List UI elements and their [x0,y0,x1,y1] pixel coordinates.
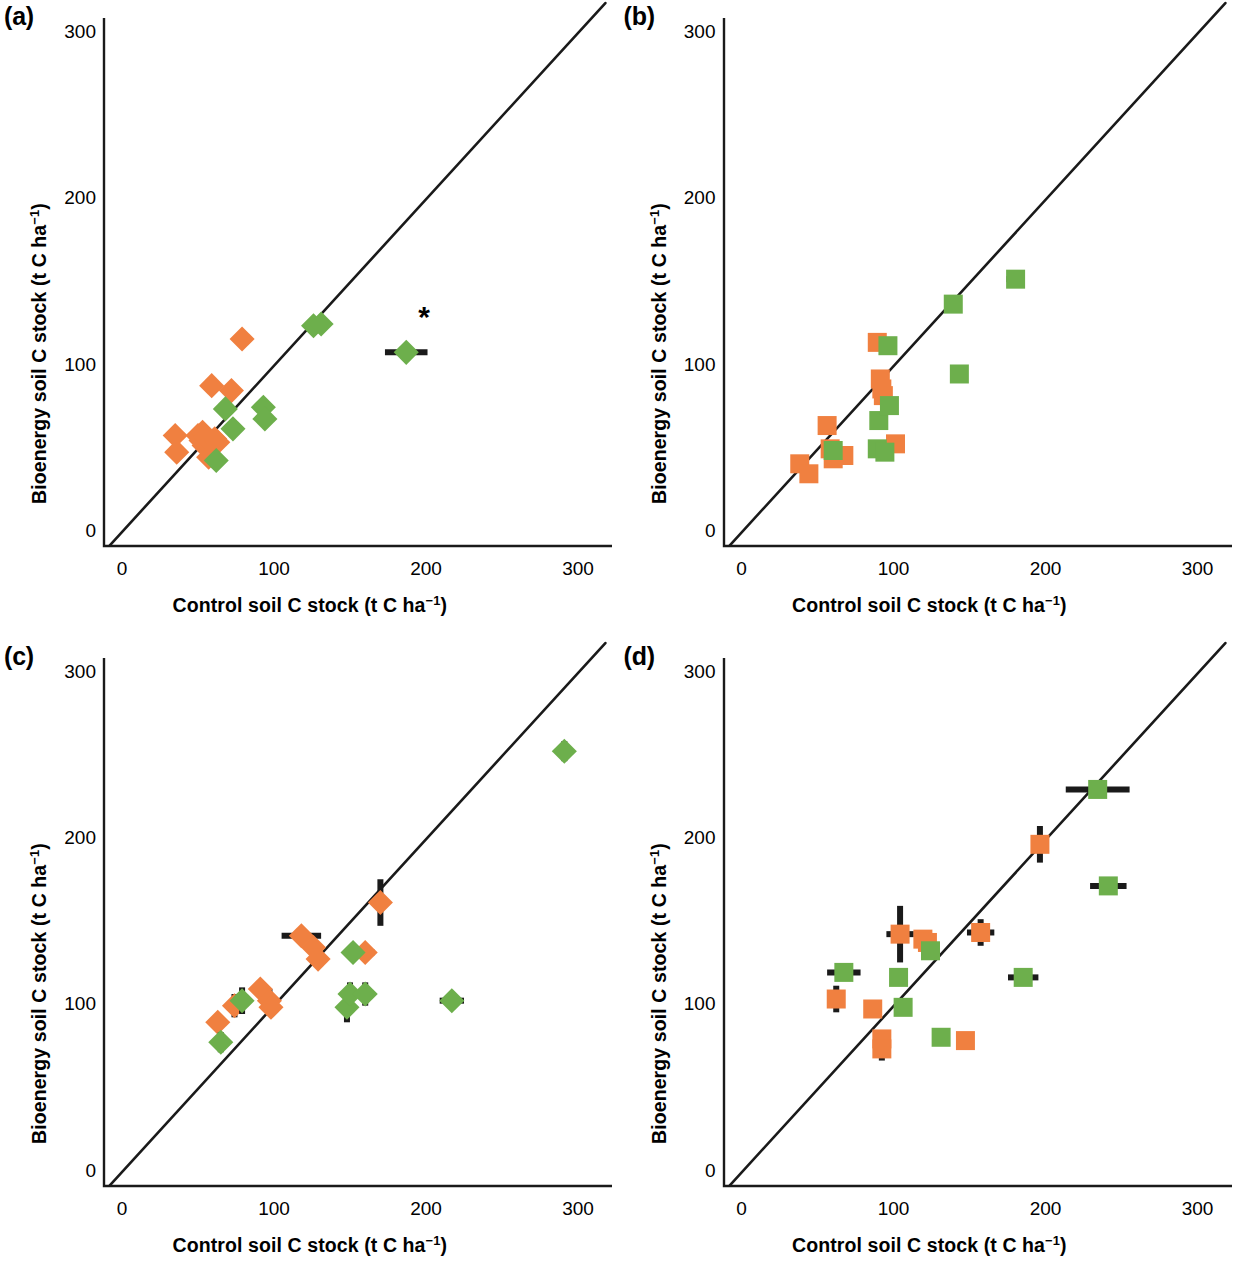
x-axis-title-exponent: −1 [1045,593,1060,608]
figure-root: (a)01002003000100200300Control soil C st… [0,0,1239,1279]
y-axis-title-tail: ) [28,203,50,210]
y-tick-label: 300 [628,21,716,43]
y-tick-label: 200 [628,827,716,849]
x-tick-label: 200 [1006,558,1086,580]
plot-area-a [0,0,620,640]
x-tick-label: 0 [702,558,782,580]
y-tick-label: 100 [628,354,716,376]
x-tick-label: 300 [1158,558,1238,580]
panel-a: (a)01002003000100200300Control soil C st… [0,0,619,639]
data-point-orange [955,1031,974,1050]
panel-d: (d)01002003000100200300Control soil C st… [620,640,1239,1279]
x-axis-title-tail: ) [440,1234,447,1256]
data-point-green [878,336,897,355]
x-tick-label: 0 [82,1198,162,1220]
x-axis-title-main: Control soil C stock (t C ha [172,594,425,616]
y-axis-title-main: Bioenergy soil C stock (t C ha [648,864,670,1143]
plot-area-b [620,0,1239,640]
data-point-orange [971,922,990,941]
data-point-green [394,340,419,365]
data-point-green [893,997,912,1016]
data-point-green [949,364,968,383]
y-axis-title-exponent: −1 [27,210,42,225]
x-axis-title: Control soil C stock (t C ha−1) [0,1234,620,1257]
data-point-orange [817,416,836,435]
data-point-orange [872,1039,891,1058]
y-tick-label: 200 [8,187,96,209]
x-tick-label: 100 [854,1198,934,1220]
data-point-orange [199,373,224,398]
x-tick-label: 100 [234,558,314,580]
y-axis-title: Bioenergy soil C stock (t C ha−1) [28,203,51,504]
y-axis-title-tail: ) [28,843,50,850]
x-axis-title-main: Control soil C stock (t C ha [792,1234,1045,1256]
data-point-green [931,1027,950,1046]
y-axis-title-tail: ) [648,843,670,850]
data-point-orange [368,890,393,915]
data-point-green [834,962,853,981]
x-tick-label: 200 [386,558,466,580]
data-point-green [1006,270,1025,289]
x-axis-title: Control soil C stock (t C ha−1) [620,1234,1239,1257]
identity-line-1to1 [729,643,1225,1185]
y-axis-title-main: Bioenergy soil C stock (t C ha [648,225,670,504]
y-axis-title-exponent: −1 [27,849,42,864]
x-tick-label: 0 [702,1198,782,1220]
x-axis-title: Control soil C stock (t C ha−1) [620,594,1239,617]
identity-line-1to1 [110,3,606,545]
y-axis-title-main: Bioenergy soil C stock (t C ha [28,225,50,504]
series-orange-c [205,879,393,1035]
y-axis-title-exponent: −1 [646,210,661,225]
x-axis-title-exponent: −1 [426,1232,441,1247]
y-axis-title: Bioenergy soil C stock (t C ha−1) [28,843,51,1144]
x-tick-label: 300 [538,558,618,580]
y-tick-label: 300 [628,661,716,683]
y-tick-label: 0 [8,1160,96,1182]
data-point-orange [799,464,818,483]
series-green-b [823,270,1024,462]
y-axis-title-main: Bioenergy soil C stock (t C ha [28,864,50,1143]
panel-b: (b)01002003000100200300Control soil C st… [620,0,1239,639]
data-point-orange [890,924,909,943]
data-point-green [1013,967,1032,986]
x-tick-label: 0 [82,558,162,580]
data-point-green [943,295,962,314]
y-tick-label: 0 [8,520,96,542]
x-axis-title: Control soil C stock (t C ha−1) [0,594,620,617]
y-tick-label: 200 [628,187,716,209]
data-point-green [1088,779,1107,798]
data-point-green [879,396,898,415]
data-point-green [1098,876,1117,895]
y-tick-label: 0 [628,1160,716,1182]
plot-area-d [620,640,1239,1279]
identity-line-1to1 [110,643,606,1185]
data-point-green [875,443,894,462]
y-tick-label: 200 [8,827,96,849]
x-axis-title-exponent: −1 [426,593,441,608]
x-axis-title-tail: ) [1060,594,1067,616]
y-tick-label: 300 [8,21,96,43]
data-point-green [920,941,939,960]
data-point-green [552,738,577,763]
y-axis-title: Bioenergy soil C stock (t C ha−1) [648,843,671,1144]
x-tick-label: 100 [854,558,934,580]
data-point-orange [230,327,255,352]
y-tick-label: 100 [8,993,96,1015]
x-tick-label: 300 [1158,1198,1238,1220]
data-point-orange [826,989,845,1008]
x-tick-label: 100 [234,1198,314,1220]
x-axis-title-tail: ) [440,594,447,616]
data-point-orange [205,1009,230,1034]
data-point-green [208,1029,233,1054]
data-point-green [823,441,842,460]
x-axis-title-exponent: −1 [1045,1232,1060,1247]
data-point-orange [1030,834,1049,853]
data-point-green [439,988,464,1013]
x-tick-label: 300 [538,1198,618,1220]
significance-asterisk: * [418,302,430,332]
y-axis-title-exponent: −1 [646,849,661,864]
panel-c: (c)01002003000100200300Control soil C st… [0,640,619,1279]
x-axis-title-tail: ) [1060,1234,1067,1256]
x-tick-label: 200 [386,1198,466,1220]
data-point-green [889,967,908,986]
